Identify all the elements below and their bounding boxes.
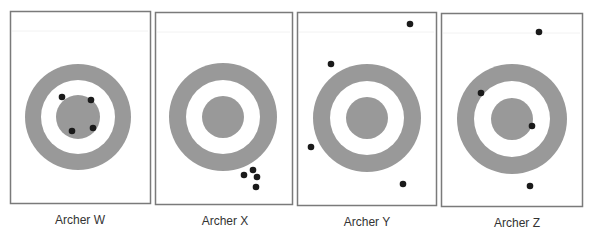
archer-z-arrow-hit <box>527 183 534 190</box>
archer-x-bullseye <box>202 96 244 138</box>
archer-y-arrow-hit <box>400 181 407 188</box>
archer-y-arrow-hit <box>328 61 335 68</box>
archer-w-arrow-hit <box>69 128 76 135</box>
archery-targets-diagram <box>0 0 595 231</box>
archer-w-arrow-hit <box>90 125 97 132</box>
label-archer-z: Archer Z <box>457 216 577 230</box>
archer-y-arrow-hit <box>308 144 315 151</box>
archer-x-arrow-hit <box>241 172 248 179</box>
label-archer-w: Archer W <box>20 213 140 227</box>
archer-z-bullseye <box>491 98 533 140</box>
archer-y-arrow-hit <box>407 21 414 28</box>
label-archer-y: Archer Y <box>307 215 427 229</box>
archer-z-arrow-hit <box>478 90 485 97</box>
archer-x-arrow-hit <box>250 167 257 174</box>
archer-w-arrow-hit <box>88 97 95 104</box>
archer-y-bullseye <box>346 97 388 139</box>
archer-z-arrow-hit <box>529 123 536 130</box>
archer-z-arrow-hit <box>536 29 543 36</box>
archer-w-arrow-hit <box>59 94 66 101</box>
archer-x-arrow-hit <box>253 184 260 191</box>
label-archer-x: Archer X <box>165 214 285 228</box>
archer-x-arrow-hit <box>254 174 261 181</box>
